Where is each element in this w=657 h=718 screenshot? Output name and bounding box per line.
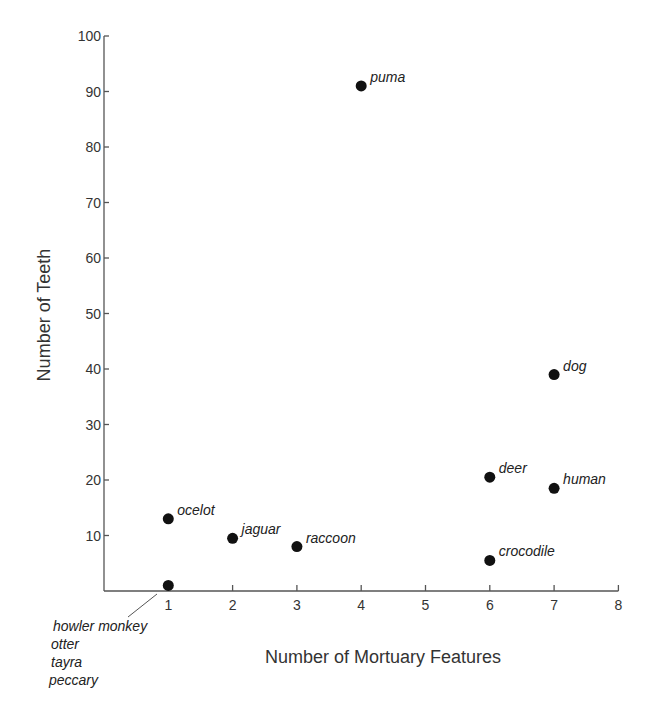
data-point-label: jaguar [240, 521, 282, 537]
x-tick-label: 8 [615, 597, 623, 613]
data-point-marker [291, 541, 302, 552]
y-tick-label: 90 [85, 84, 101, 100]
data-point-marker [549, 369, 560, 380]
y-tick-label: 60 [85, 250, 101, 266]
x-tick-label: 2 [229, 597, 237, 613]
x-tick-label: 4 [357, 597, 365, 613]
data-point-marker [549, 483, 560, 494]
cluster-label: otter [51, 636, 80, 652]
x-tick-label: 3 [293, 597, 301, 613]
data-point-marker [227, 533, 238, 544]
data-point-marker [163, 580, 174, 591]
data-point-label: raccoon [306, 530, 356, 546]
data-points: pumadogdeerhumanocelotjaguarraccooncroco… [163, 69, 606, 591]
data-point-marker [356, 80, 367, 91]
y-axis-title: Number of Teeth [34, 249, 54, 382]
x-tick-label: 5 [422, 597, 430, 613]
data-point-marker [484, 555, 495, 566]
data-point-marker [484, 472, 495, 483]
y-tick-label: 70 [85, 195, 101, 211]
axes: 10203040506070809010012345678 [78, 28, 623, 613]
x-tick-label: 1 [164, 597, 172, 613]
y-tick-label: 20 [85, 472, 101, 488]
x-tick-label: 6 [486, 597, 494, 613]
data-point-label: human [563, 471, 606, 487]
y-tick-label: 50 [85, 306, 101, 322]
x-axis-title: Number of Mortuary Features [265, 647, 501, 667]
data-point-label: deer [499, 460, 528, 476]
x-tick-label: 7 [550, 597, 558, 613]
cluster-label: tayra [51, 654, 82, 670]
cluster-label: howler monkey [53, 618, 148, 634]
data-point-label: puma [369, 69, 405, 85]
data-point-label: ocelot [177, 502, 215, 518]
data-point-label: crocodile [499, 543, 555, 559]
data-point-label: dog [563, 358, 587, 374]
cluster-label: peccary [48, 672, 99, 688]
y-tick-label: 10 [85, 528, 101, 544]
y-tick-label: 80 [85, 139, 101, 155]
data-point-marker [163, 513, 174, 524]
scatter-chart: 10203040506070809010012345678 pumadogdee… [0, 0, 657, 718]
leader-line [128, 594, 157, 617]
y-tick-label: 100 [78, 28, 102, 44]
y-tick-label: 30 [85, 417, 101, 433]
y-tick-label: 40 [85, 361, 101, 377]
cluster-annotation: howler monkeyottertayrapeccary [48, 594, 157, 688]
